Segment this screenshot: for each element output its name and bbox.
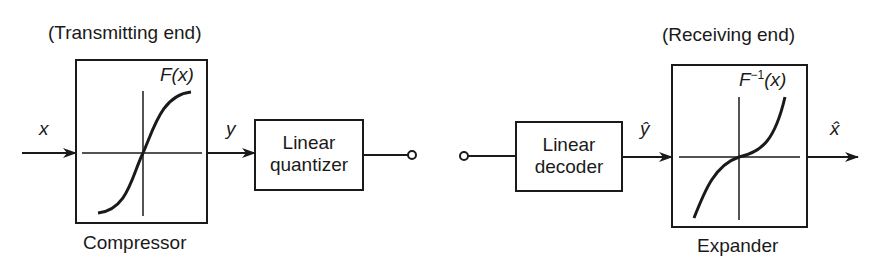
signal-y-hat-label: ŷ (640, 118, 650, 140)
compressor-caption: Compressor (83, 232, 186, 254)
channel-terminal-out (408, 151, 416, 159)
compressor-function-label: F(x) (160, 64, 194, 86)
decoder-label-line1: Linear (516, 134, 622, 156)
channel-terminal-in (460, 152, 468, 160)
quantizer-label: Linear quantizer (255, 132, 363, 176)
expander-function-sup: −1 (751, 68, 765, 82)
signal-x-hat-label: x̂ (830, 118, 840, 140)
transmitting-end-label: (Transmitting end) (48, 22, 201, 44)
receiving-end-label: (Receiving end) (662, 24, 795, 46)
quantizer-label-line1: Linear (255, 132, 363, 154)
signal-y-label: y (226, 118, 236, 140)
expander-caption: Expander (697, 235, 778, 257)
expander-function-label: F−1(x) (739, 68, 786, 91)
quantizer-label-line2: quantizer (255, 154, 363, 176)
signal-x-label: x (39, 118, 49, 140)
expander-function-base: F (739, 69, 751, 90)
expander-function-arg: (x) (764, 69, 786, 90)
decoder-label-line2: decoder (516, 156, 622, 178)
decoder-label: Linear decoder (516, 134, 622, 178)
